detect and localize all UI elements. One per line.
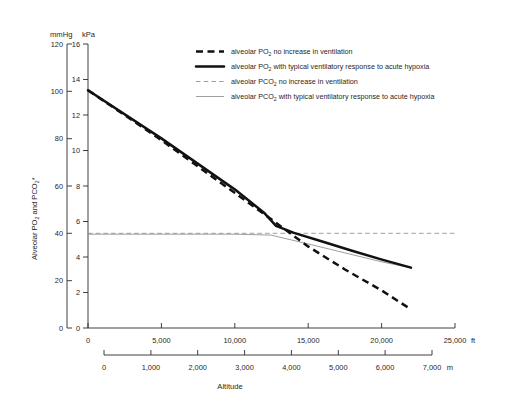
y-title-part2: and PCO xyxy=(30,183,39,216)
legend-label-po2-with-ventilation: alveolar PO2 with typical ventilatory re… xyxy=(231,62,429,72)
kpa-tick-labels: 16 14 12 10 8 6 4 2 0 xyxy=(72,40,80,333)
y-title-part1: Alveolar PO xyxy=(30,219,39,260)
legend-1-rest: with typical ventilatory response to acu… xyxy=(271,62,429,71)
legend-2-main: alveolar PCO xyxy=(231,77,274,86)
legend-1-main: alveolar PO xyxy=(231,62,269,71)
mmhg-tick-0: 0 xyxy=(59,324,63,333)
legend-label-po2-no-ventilation: alveolar PO2 no increase in ventilation xyxy=(231,47,353,57)
metres-tick-4000: 4,000 xyxy=(282,363,301,372)
kpa-tick-4: 4 xyxy=(76,253,80,262)
plot-area xyxy=(88,90,455,309)
mmhg-tick-labels: 120 100 80 60 40 20 0 xyxy=(51,40,63,333)
legend-item-pco2-with-ventilation[interactable]: alveolar PCO2 with typical ventilatory r… xyxy=(196,92,434,102)
metres-tick-6000: 6,000 xyxy=(376,363,395,372)
kpa-unit-label: kPa xyxy=(82,30,96,39)
kpa-tick-0: 0 xyxy=(76,324,80,333)
mmhg-tick-80: 80 xyxy=(55,134,63,143)
series-pco2-with-ventilation xyxy=(88,234,411,268)
feet-tick-20000: 20,000 xyxy=(370,336,393,345)
metres-tick-1000: 1,000 xyxy=(142,363,161,372)
series-po2-with-ventilation xyxy=(88,90,411,267)
metres-unit-label: m xyxy=(447,363,453,372)
y-axis-title: Alveolar PO2 and PCO2* xyxy=(30,177,40,260)
legend-item-po2-no-ventilation[interactable]: alveolar PO2 no increase in ventilation xyxy=(196,47,353,57)
kpa-ticks xyxy=(83,44,88,328)
metres-tick-5000: 5,000 xyxy=(329,363,348,372)
feet-tick-25000: 25,000 xyxy=(444,336,467,345)
chart-svg: mmHg kPa Alveolar PO2 and PCO2* 120 100 … xyxy=(0,0,507,404)
kpa-tick-10: 10 xyxy=(72,146,80,155)
kpa-tick-8: 8 xyxy=(76,182,80,191)
legend-2-rest: no increase in ventilation xyxy=(277,77,358,86)
x-axis-title: Altitude xyxy=(217,382,242,391)
kpa-tick-6: 6 xyxy=(76,217,80,226)
metres-tick-3000: 3,000 xyxy=(235,363,254,372)
feet-tick-0: 0 xyxy=(86,336,90,345)
kpa-tick-14: 14 xyxy=(72,75,80,84)
kpa-tick-16: 16 xyxy=(72,40,80,49)
metres-tick-2000: 2,000 xyxy=(188,363,207,372)
legend-3-main: alveolar PCO xyxy=(231,92,274,101)
feet-unit-label: ft xyxy=(471,336,476,345)
kpa-tick-12: 12 xyxy=(72,111,80,120)
chart-figure: mmHg kPa Alveolar PO2 and PCO2* 120 100 … xyxy=(0,0,507,404)
mmhg-tick-60: 60 xyxy=(55,182,63,191)
mmhg-tick-20: 20 xyxy=(55,276,63,285)
legend-3-rest: with typical ventilatory response to acu… xyxy=(277,92,435,101)
metres-tick-0: 0 xyxy=(102,363,106,372)
mmhg-tick-100: 100 xyxy=(51,87,63,96)
mmhg-tick-120: 120 xyxy=(51,40,63,49)
mmhg-unit-label: mmHg xyxy=(50,30,72,39)
feet-ticks xyxy=(88,323,455,328)
svg-text:Alveolar PO2 and PCO2*: Alveolar PO2 and PCO2* xyxy=(30,177,40,260)
chart-legend: alveolar PO2 no increase in ventilation … xyxy=(196,47,434,102)
kpa-tick-2: 2 xyxy=(76,288,80,297)
feet-tick-10000: 10,000 xyxy=(223,336,246,345)
mmhg-ticks xyxy=(67,44,72,328)
feet-tick-5000: 5,000 xyxy=(152,336,171,345)
legend-label-pco2-with-ventilation: alveolar PCO2 with typical ventilatory r… xyxy=(231,92,434,102)
metres-tick-labels: 0 1,000 2,000 3,000 4,000 5,000 6,000 7,… xyxy=(102,363,453,372)
metres-tick-7000: 7,000 xyxy=(423,363,442,372)
feet-tick-15000: 15,000 xyxy=(297,336,320,345)
legend-0-main: alveolar PO xyxy=(231,47,269,56)
feet-tick-labels: 0 5,000 10,000 15,000 20,000 25,000 ft xyxy=(86,336,476,345)
mmhg-tick-40: 40 xyxy=(55,229,63,238)
legend-0-rest: no increase in ventilation xyxy=(271,47,352,56)
legend-item-po2-with-ventilation[interactable]: alveolar PO2 with typical ventilatory re… xyxy=(196,62,429,72)
y-title-star: * xyxy=(30,177,39,180)
legend-label-pco2-no-ventilation: alveolar PCO2 no increase in ventilation xyxy=(231,77,358,87)
metres-ticks xyxy=(104,350,432,355)
legend-item-pco2-no-ventilation[interactable]: alveolar PCO2 no increase in ventilation xyxy=(196,77,358,87)
